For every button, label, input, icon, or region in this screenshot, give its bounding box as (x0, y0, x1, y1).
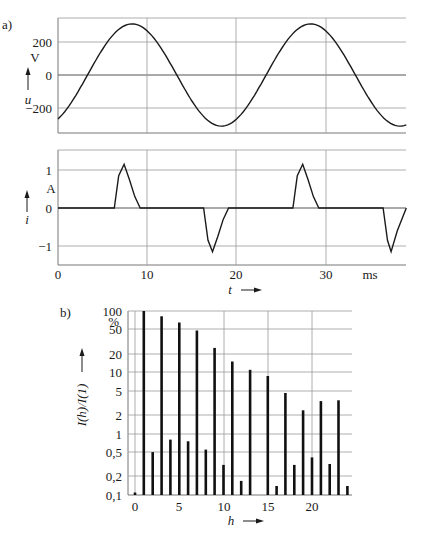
panel-b-label: b) (60, 305, 71, 320)
t-tick-30: 30 (320, 267, 333, 282)
i-symbol-label: i (25, 212, 29, 227)
h-tick-15: 15 (262, 499, 275, 514)
ratio-symbol-label: I(h)/I(1) (74, 384, 89, 428)
ratio-tick-50: 50 (109, 322, 122, 337)
h-tick-20: 20 (306, 499, 319, 514)
t-axis-arrow-icon (241, 288, 262, 293)
i-tick-1: 1 (46, 163, 53, 178)
ratio-tick-0-1: 0,1 (106, 488, 122, 503)
i-axis-arrow-icon (25, 190, 30, 212)
ratio-tick-5: 5 (116, 384, 123, 399)
ratio-tick-20: 20 (109, 347, 122, 362)
voltage-grid (58, 18, 406, 133)
current-chart: 1 0 −1 A i 0 10 20 30 ms t (25, 150, 407, 297)
u-axis-arrow-icon (26, 67, 31, 90)
harmonic-bars (135, 311, 347, 495)
h-symbol-label: h (228, 513, 235, 528)
harmonic-chart: 100 % 50 20 10 5 2 1 0,5 0,2 0,1 I(h)/I(… (74, 304, 352, 528)
t-tick-0: 0 (55, 267, 62, 282)
i-unit-label: A (46, 181, 56, 196)
ratio-axis-title: I(h)/I(1) (74, 384, 89, 428)
t-symbol-label: t (228, 282, 232, 297)
u-tick-200: 200 (33, 35, 53, 50)
h-tick-10: 10 (218, 499, 231, 514)
ratio-tick-1: 1 (116, 427, 123, 442)
u-tick-0: 0 (46, 68, 53, 83)
ratio-tick-0-2: 0,2 (106, 469, 122, 484)
voltage-chart: 200 0 −200 V u (25, 18, 407, 133)
ratio-tick-0-5: 0,5 (106, 445, 122, 460)
t-tick-20: 20 (230, 267, 243, 282)
u-symbol-label: u (25, 92, 32, 107)
ratio-tick-10: 10 (109, 365, 122, 380)
i-tick-minus1: −1 (38, 239, 52, 254)
h-tick-5: 5 (176, 499, 183, 514)
h-tick-0: 0 (132, 499, 139, 514)
i-tick-0: 0 (46, 201, 53, 216)
figure-canvas: a) b) 200 0 −200 V u (0, 0, 421, 534)
ratio-axis-arrow-icon (80, 348, 85, 372)
t-unit-label: ms (362, 267, 377, 282)
ratio-tick-2: 2 (116, 408, 123, 423)
panel-a-label: a) (2, 17, 12, 32)
u-unit-label: V (30, 50, 40, 65)
t-tick-10: 10 (141, 267, 154, 282)
h-axis-arrow-icon (243, 519, 264, 524)
current-curve (58, 164, 406, 251)
